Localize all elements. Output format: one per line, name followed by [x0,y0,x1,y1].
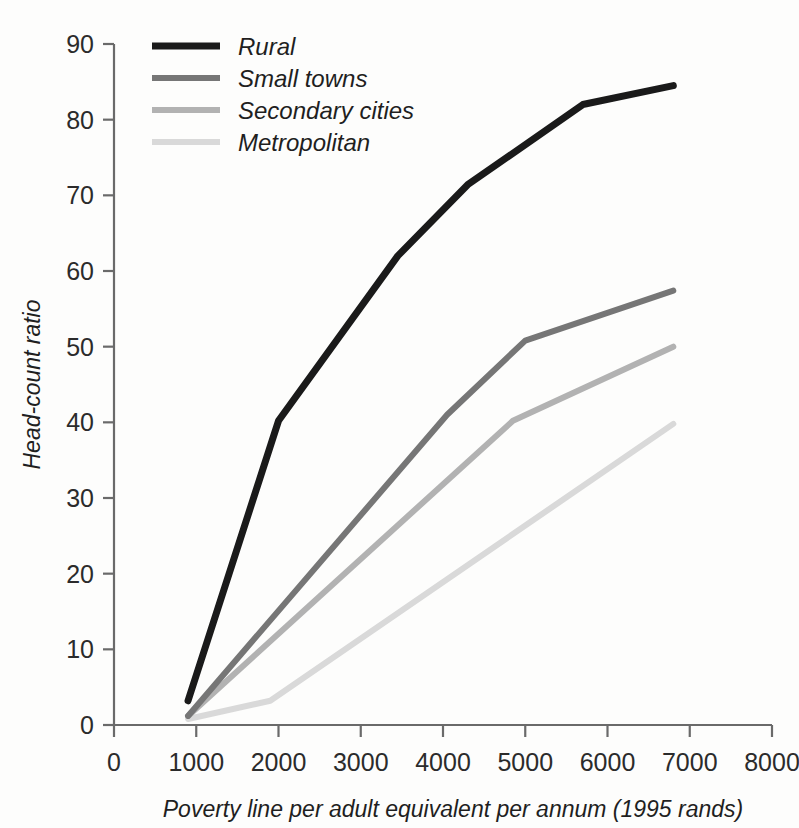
y-tick-label: 40 [66,408,94,436]
series-line-rural [188,86,673,701]
x-tick-label: 4000 [415,748,471,776]
y-tick-label: 70 [66,181,94,209]
plot-area: 0102030405060708090010002000300040005000… [19,30,799,822]
y-tick-label: 0 [80,711,94,739]
x-axis-title: Poverty line per adult equivalent per an… [163,796,743,822]
series-group [188,86,673,719]
y-tick-label: 20 [66,560,94,588]
x-tick-label: 1000 [168,748,224,776]
legend-label-small-towns: Small towns [238,65,367,92]
legend-label-rural: Rural [238,33,296,60]
x-tick-label: 5000 [497,748,553,776]
legend-label-secondary-cities: Secondary cities [238,97,414,124]
legend-label-metropolitan: Metropolitan [238,129,370,156]
chart-container: 0102030405060708090010002000300040005000… [0,0,799,828]
x-tick-label: 3000 [333,748,389,776]
line-chart: 0102030405060708090010002000300040005000… [0,0,799,828]
x-tick-label: 6000 [580,748,636,776]
y-tick-label: 60 [66,257,94,285]
y-tick-label: 80 [66,106,94,134]
x-tick-label: 8000 [744,748,799,776]
y-tick-label: 10 [66,635,94,663]
y-axis-title: Head-count ratio [19,299,45,469]
x-tick-label: 0 [107,748,121,776]
y-tick-label: 90 [66,30,94,58]
x-tick-label: 7000 [662,748,718,776]
y-tick-label: 50 [66,333,94,361]
series-line-secondary-cities [188,347,673,716]
x-tick-label: 2000 [251,748,307,776]
legend: RuralSmall townsSecondary citiesMetropol… [152,33,414,156]
y-tick-label: 30 [66,484,94,512]
